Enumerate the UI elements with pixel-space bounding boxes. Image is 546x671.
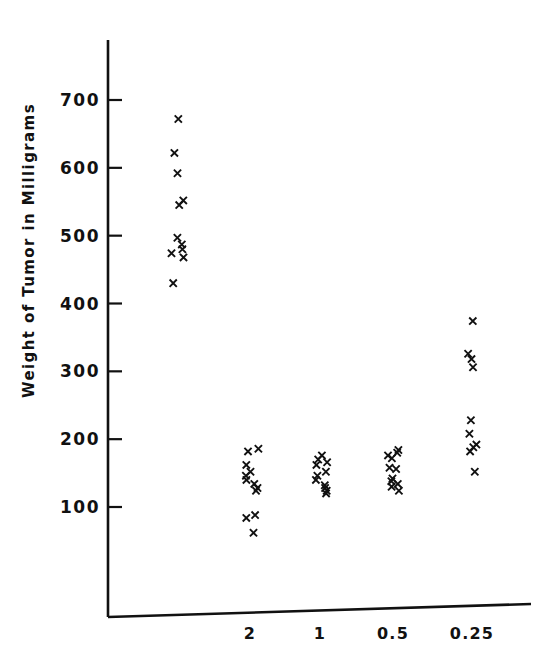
series-2 bbox=[242, 445, 262, 536]
data-point-marker bbox=[322, 468, 329, 475]
x-axis-tick-labels: 210.50.25 bbox=[244, 624, 494, 643]
y-tick-label: 700 bbox=[60, 90, 100, 110]
series-control bbox=[168, 115, 187, 286]
x-axis-line bbox=[108, 604, 531, 617]
series-0.25 bbox=[465, 318, 481, 476]
data-point-marker bbox=[386, 464, 393, 471]
data-point-marker bbox=[395, 487, 402, 494]
y-axis-title: Weight of Tumor in Milligrams bbox=[20, 103, 38, 398]
data-point-marker bbox=[170, 280, 177, 287]
y-tick-label: 300 bbox=[60, 361, 100, 381]
x-tick-label: 0.25 bbox=[450, 624, 494, 643]
scatter-plot-figure: 100200300400500600700 210.50.25 Weight o… bbox=[0, 0, 546, 671]
x-tick-label: 0.5 bbox=[377, 624, 409, 643]
data-point-marker bbox=[244, 448, 251, 455]
y-tick-label: 100 bbox=[60, 497, 100, 517]
data-point-marker bbox=[174, 170, 181, 177]
data-point-marker bbox=[168, 250, 175, 257]
x-tick-label: 2 bbox=[244, 624, 256, 643]
data-point-marker bbox=[388, 455, 395, 462]
data-point-marker bbox=[466, 430, 473, 437]
data-point-marker bbox=[324, 459, 331, 466]
data-point-marker bbox=[243, 461, 250, 468]
data-point-marker bbox=[469, 318, 476, 325]
data-point-marker bbox=[252, 512, 259, 519]
data-point-marker bbox=[180, 254, 187, 261]
data-point-marker bbox=[176, 202, 183, 209]
data-point-marker bbox=[467, 417, 474, 424]
y-tick-label: 400 bbox=[60, 294, 100, 314]
data-point-marker bbox=[171, 149, 178, 156]
y-axis-ticks bbox=[108, 100, 122, 507]
x-tick-label: 1 bbox=[314, 624, 326, 643]
series-0.5 bbox=[384, 446, 402, 494]
data-point-marker bbox=[174, 234, 181, 241]
data-point-marker bbox=[471, 468, 478, 475]
data-point-marker bbox=[179, 246, 186, 253]
data-point-marker bbox=[243, 514, 250, 521]
y-tick-label: 200 bbox=[60, 429, 100, 449]
data-point-marker bbox=[175, 115, 182, 122]
y-tick-label: 600 bbox=[60, 158, 100, 178]
series-1 bbox=[312, 452, 330, 497]
data-point-marker bbox=[467, 448, 474, 455]
data-point-marker bbox=[393, 465, 400, 472]
data-point-marker bbox=[469, 364, 476, 371]
y-tick-label: 500 bbox=[60, 226, 100, 246]
data-point-marker bbox=[255, 445, 262, 452]
data-point-marker bbox=[250, 529, 257, 536]
plot-canvas: 100200300400500600700 210.50.25 Weight o… bbox=[0, 0, 546, 671]
data-point-layer bbox=[168, 115, 480, 536]
y-axis-tick-labels: 100200300400500600700 bbox=[60, 90, 100, 517]
